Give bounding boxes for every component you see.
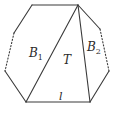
- polygon-diagram: B1 T B2 l: [0, 0, 115, 113]
- lower-right-edge: [90, 71, 109, 102]
- lower-left-edge: [5, 71, 26, 102]
- label-b2: B2: [86, 40, 101, 56]
- label-l: l: [59, 90, 63, 103]
- right-dotted-edge: [100, 29, 109, 71]
- label-t: T: [63, 53, 72, 67]
- upper-left-edge: [14, 5, 32, 33]
- upper-right-edge: [78, 5, 100, 29]
- label-b1: B1: [28, 46, 43, 62]
- left-dotted-edge: [5, 33, 14, 71]
